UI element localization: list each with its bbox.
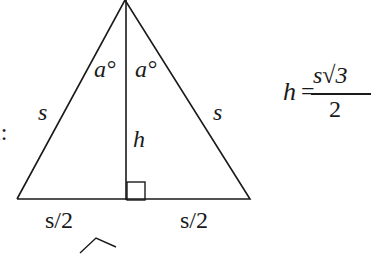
angle-right-label: a° — [135, 57, 157, 81]
side-left-label: s — [38, 100, 47, 124]
formula-lhs: h — [283, 79, 296, 105]
base-left-label: s/2 — [45, 208, 73, 232]
angle-left-label: a° — [94, 57, 116, 81]
base-right-label: s/2 — [180, 208, 208, 232]
formula-denominator: 2 — [329, 96, 341, 123]
right-angle-marker — [127, 182, 145, 200]
fraction-bar — [311, 93, 371, 95]
altitude-label: h — [133, 127, 145, 151]
formula-numerator: s√3 — [313, 62, 348, 89]
side-right-label: s — [213, 100, 222, 124]
left-text-fragment: l: — [0, 120, 7, 144]
radical-fragment — [80, 238, 116, 253]
